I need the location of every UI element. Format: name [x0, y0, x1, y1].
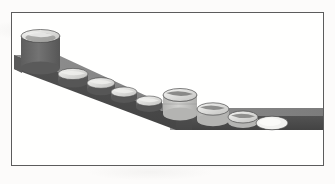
- cylinder-8-flat: [228, 111, 258, 128]
- cylinder-6-medium: [163, 89, 197, 121]
- cylinder-1-tall: [21, 30, 60, 75]
- ramp-scene-illustration: [0, 0, 335, 184]
- disc-9-flat: [256, 116, 288, 130]
- cylinder-7-low: [197, 103, 229, 126]
- cylinder-4-short: [111, 87, 137, 103]
- figure-root: [0, 0, 335, 184]
- cylinder-5-short: [136, 96, 162, 112]
- cylinder-2-short: [58, 68, 88, 87]
